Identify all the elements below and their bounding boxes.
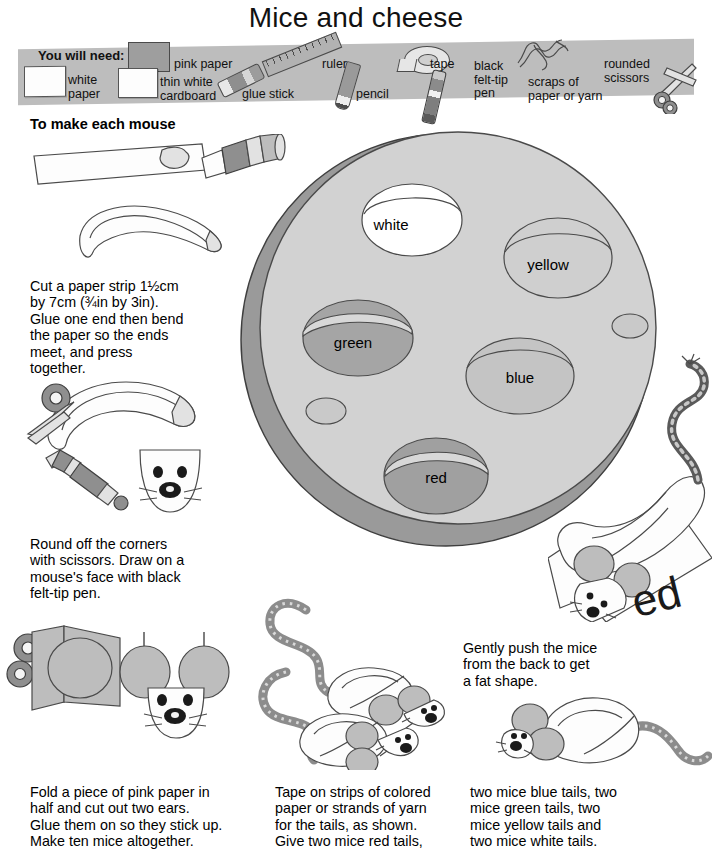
cheese-hole-red — [384, 438, 488, 514]
white-cardboard-icon — [118, 68, 158, 98]
materials-item-label-pink-paper: pink paper — [174, 58, 232, 72]
section-heading-make-mouse: To make each mouse — [30, 116, 176, 132]
materials-heading: You will need: — [38, 49, 124, 63]
materials-item-label-white-paper: white paper — [68, 74, 100, 101]
bent-paper-loop-illustration — [70, 196, 230, 266]
step-5-text: two mice blue tails, two mice green tail… — [470, 784, 670, 850]
pen-and-face-illustration — [44, 446, 214, 516]
cheese-hole-yellow — [504, 218, 612, 298]
materials-item-label-glue-stick: glue stick — [242, 88, 294, 102]
materials-item-label-felt-tip-pen: black felt-tip pen — [474, 60, 508, 101]
mouse-face-with-ears-illustration — [118, 630, 230, 740]
mice-with-tails-illustration — [258, 590, 488, 770]
step-4-text: Tape on strips of colored paper or stran… — [275, 784, 465, 850]
scissors-icon — [652, 62, 698, 114]
step-3-text: Fold a piece of pink paper in half and c… — [30, 784, 270, 850]
cheese-hole-small-right — [612, 314, 648, 338]
folded-pink-paper-ears-illustration — [4, 610, 134, 740]
materials-item-label-scissors: rounded scissors — [604, 58, 650, 85]
yarn-scraps-icon — [516, 37, 570, 71]
materials-item-label-yarn-scraps: scraps of paper or yarn — [528, 76, 602, 103]
step-6-text: Gently push the mice from the back to ge… — [463, 640, 653, 689]
step-2-text: Round off the corners with scissors. Dra… — [30, 536, 250, 602]
cheese-hole-white — [362, 184, 462, 256]
finished-mouse-illustration — [492, 692, 712, 782]
white-paper-icon — [24, 66, 66, 98]
materials-item-label-pencil: pencil — [356, 88, 389, 102]
felt-tip-pen-icon — [421, 69, 447, 125]
cheese-hole-green — [303, 300, 413, 376]
materials-list: You will need: white paper pink paper th… — [0, 0, 712, 120]
worksheet-page: Mice and cheese You will need: white pap… — [0, 0, 712, 856]
cheese-hole-small-left — [306, 398, 346, 424]
materials-item-label-cardboard: thin white cardboard — [160, 76, 216, 103]
step-1-text: Cut a paper strip 1½cm by 7cm (¾in by 3i… — [30, 278, 250, 376]
